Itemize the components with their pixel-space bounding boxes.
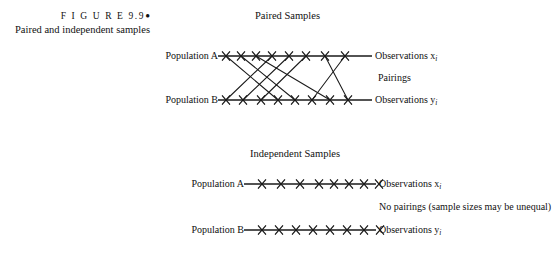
- observation-tick-marks-group: [222, 52, 383, 234]
- samples-diagram: [0, 0, 557, 265]
- paired-pairing-line: [226, 56, 278, 100]
- population-axis-lines-group: [218, 56, 376, 230]
- pairing-lines-group: [226, 56, 348, 100]
